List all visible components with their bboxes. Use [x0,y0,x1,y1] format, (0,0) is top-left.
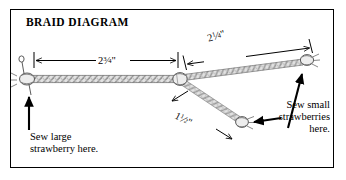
center-junction-knot [173,73,187,86]
dim-main-numerator: 3 [103,55,106,62]
caption-left-line2: strawberry here. [30,143,98,155]
caption-left-line1: Sew large [30,131,98,143]
dim-main-unit: " [112,55,116,66]
caption-sew-small-strawberries: Sew small strawberries here. [272,99,330,136]
main-braided-cord [28,75,178,82]
caption-right-line2: strawberries [272,111,330,123]
braid-diagram-figure: BRAID DIAGRAM [0,0,346,180]
lower-branch-end-knot [236,117,255,130]
left-end-knot [11,56,35,95]
dimension-label-main: 23⁄4" [98,55,116,66]
caption-sew-large-strawberry: Sew large strawberry here. [30,131,98,155]
caption-right-line1: Sew small [272,99,330,111]
caption-right-line3: here. [272,123,330,135]
